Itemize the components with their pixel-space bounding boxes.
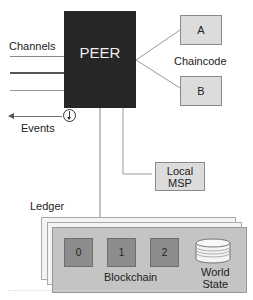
- block-1: 1: [107, 238, 136, 267]
- chaincode-a-label: A: [197, 24, 204, 36]
- block-0: 0: [64, 238, 93, 267]
- local-msp-label-line2: MSP: [168, 177, 192, 189]
- ledger-label: Ledger: [30, 200, 64, 212]
- chaincode-b-box: B: [180, 76, 222, 106]
- msp-connector: [123, 108, 152, 174]
- chaincode-a-box: A: [180, 15, 222, 45]
- world-state-label-line2: State: [201, 278, 230, 290]
- block-label: 1: [119, 247, 125, 258]
- database-icon: [193, 237, 233, 265]
- block-label: 0: [76, 247, 82, 258]
- chaincode-b-label: B: [197, 85, 204, 97]
- block-2: 2: [150, 238, 179, 267]
- local-msp-label-line1: Local: [167, 165, 193, 177]
- scan-artifact: [8, 290, 198, 295]
- world-state-label: World State: [201, 266, 230, 290]
- blockchain-label: Blockchain: [104, 271, 157, 283]
- local-msp-box: Local MSP: [155, 162, 205, 191]
- chaincode-label: Chaincode: [174, 55, 227, 67]
- block-label: 2: [162, 247, 168, 258]
- world-state-label-line1: World: [201, 266, 230, 278]
